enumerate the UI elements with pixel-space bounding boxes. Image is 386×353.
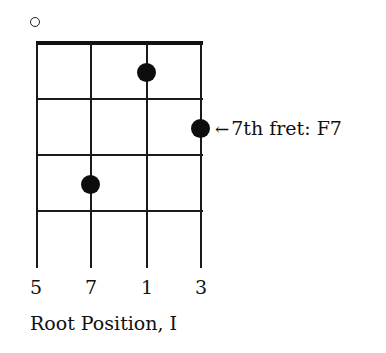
annotation-text: 7th fret: F7 [231,117,342,139]
fret-line-3 [36,210,203,212]
string-label: 1 [137,276,157,298]
fret-annotation: ←7th fret: F7 [215,116,342,141]
finger-dot [191,119,210,138]
string-label: 3 [191,276,211,298]
arrow-left-icon: ← [215,117,229,141]
finger-dot [81,175,100,194]
string-label: 5 [26,276,46,298]
fret-line-1 [36,98,203,100]
fret-line-2 [36,154,203,156]
string-label: 7 [81,276,101,298]
caption: Root Position, I [30,312,177,334]
finger-dot [137,63,156,82]
nut [36,41,203,45]
open-string-marker [30,17,40,27]
